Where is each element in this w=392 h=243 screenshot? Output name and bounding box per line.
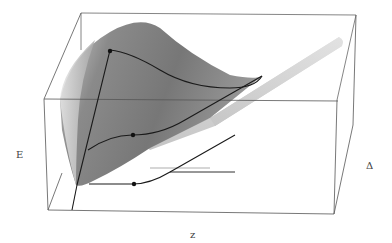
upper-marker (108, 49, 112, 53)
axis-label-z: z (190, 229, 195, 240)
axis-label-delta: Δ (366, 160, 373, 171)
floor-marker (132, 182, 136, 186)
middle-marker (131, 133, 135, 137)
front-vertical-line (72, 185, 77, 210)
energy-surface (60, 22, 262, 185)
axis-label-e: E (16, 149, 23, 160)
3d-surface-plot (0, 0, 392, 243)
